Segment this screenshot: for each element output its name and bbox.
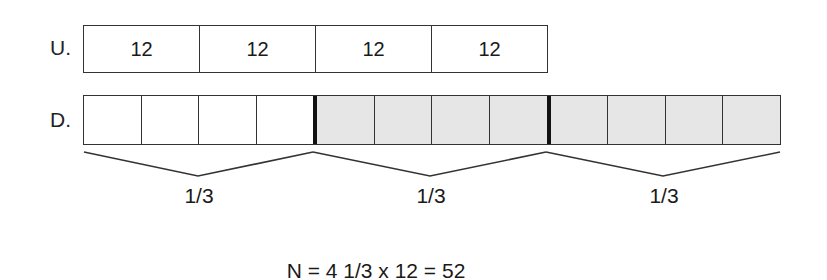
brace-label-1: 1/3 [184, 184, 213, 208]
brace-label-2: 1/3 [416, 184, 445, 208]
brace-2 [313, 152, 546, 176]
thirds-braces [0, 0, 827, 280]
equation: N = 4 1/3 x 12 = 52 [287, 259, 466, 280]
brace-1 [84, 152, 313, 176]
brace-3 [546, 152, 780, 176]
brace-label-3: 1/3 [649, 184, 678, 208]
